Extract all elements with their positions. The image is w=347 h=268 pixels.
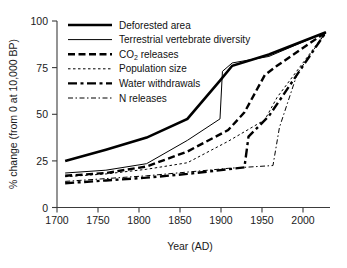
y-axis-ticks [52, 21, 57, 208]
x-tick-label-2000: 2000 [291, 214, 315, 226]
x-tick-label-1950: 1950 [250, 214, 274, 226]
line-chart-canvas: 100 75 50 25 0 1700 1750 1800 1850 1900 … [0, 0, 347, 268]
legend-label-co2-releases: CO2 releases [119, 49, 178, 62]
x-tick-label-1900: 1900 [209, 214, 233, 226]
x-tick-label-1700: 1700 [45, 214, 69, 226]
x-tick-label-1850: 1850 [168, 214, 192, 226]
legend-label-population-size: Population size [119, 63, 187, 74]
y-tick-label-0: 0 [42, 202, 48, 214]
x-tick-label-1750: 1750 [86, 214, 110, 226]
series-line-deforested-area [65, 32, 326, 161]
legend-label-water-withdrawals: Water withdrawals [119, 78, 200, 89]
x-axis-title: Year (AD) [167, 240, 213, 252]
y-axis-title: % change (from 0 at 10,000 BP) [7, 39, 19, 189]
legend-label-terrestrial-vertebrate-diversity: Terrestrial vertebrate diversity [119, 34, 250, 45]
legend-label-n-releases: N releases [119, 93, 167, 104]
x-axis-ticks [57, 208, 303, 213]
y-tick-label-75: 75 [36, 62, 48, 74]
y-tick-label-50: 50 [36, 108, 48, 120]
y-tick-label-25: 25 [36, 155, 48, 167]
y-tick-label-100: 100 [30, 15, 48, 27]
chart-figure: 100 75 50 25 0 1700 1750 1800 1850 1900 … [0, 0, 347, 268]
chart-legend: Deforested areaTerrestrial vertebrate di… [68, 20, 250, 104]
x-tick-label-1800: 1800 [127, 214, 151, 226]
legend-label-deforested-area: Deforested area [119, 20, 191, 31]
